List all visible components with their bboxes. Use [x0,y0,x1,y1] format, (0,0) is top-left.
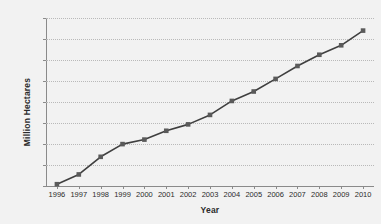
data-point [230,99,235,104]
x-tick-mark [166,186,167,189]
data-point [120,142,125,147]
x-tick-mark [123,186,124,189]
data-point [186,122,191,127]
x-tick-mark [319,186,320,189]
data-point [361,28,366,33]
x-tick-mark [341,186,342,189]
x-tick-label: 2010 [343,190,381,199]
data-point [273,77,278,82]
data-point [142,137,147,142]
x-tick-mark [232,186,233,189]
data-point [317,52,322,57]
x-tick-mark [144,186,145,189]
data-point [251,89,256,94]
x-tick-mark [363,186,364,189]
data-series [46,18,374,186]
data-point [164,128,169,133]
x-tick-mark [79,186,80,189]
series-markers [55,28,366,186]
x-axis-title: Year [46,205,374,215]
x-tick-mark [188,186,189,189]
x-tick-mark [210,186,211,189]
x-tick-mark [297,186,298,189]
data-point [98,155,103,160]
data-point [77,172,82,177]
plot-area: 020406080100120140160 [46,18,374,186]
data-point [295,64,300,69]
x-tick-mark [276,186,277,189]
line-chart: Million Hectares 020406080100120140160 1… [0,0,381,224]
x-tick-mark [101,186,102,189]
x-tick-mark [254,186,255,189]
data-point [339,43,344,48]
y-axis-title: Million Hectares [18,0,36,224]
y-tick-mark [43,186,46,187]
data-point [208,113,213,118]
data-point [55,182,60,187]
